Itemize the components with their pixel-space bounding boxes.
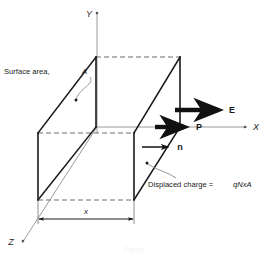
displaced-charge-leader-dot bbox=[146, 162, 149, 165]
normal-label: n bbox=[177, 142, 183, 152]
displaced-charge-text: Displaced charge = bbox=[148, 180, 214, 189]
dimension-x-label: x bbox=[83, 207, 89, 216]
z-axis-tip-dot bbox=[22, 240, 25, 243]
annotation-surface-area: Surface area, A bbox=[4, 67, 91, 102]
annotation-displaced-charge: Displaced charge = qNxA bbox=[146, 162, 252, 190]
edge-right-top-diagonal bbox=[134, 57, 180, 133]
vector-electric-field: E bbox=[175, 105, 235, 115]
polarization-label: P bbox=[196, 122, 202, 132]
edge-right-bottom-diagonal bbox=[134, 127, 180, 200]
figure-caption: Figure bbox=[124, 246, 144, 254]
surface-area-symbol: A bbox=[81, 67, 87, 76]
vector-normal: n bbox=[142, 142, 183, 152]
surface-area-leader-dot bbox=[75, 99, 78, 102]
dimension-x: x bbox=[38, 200, 134, 224]
y-axis-tip-dot bbox=[96, 12, 99, 15]
y-axis-label: Y bbox=[86, 9, 93, 19]
z-axis-line bbox=[22, 127, 97, 243]
displaced-charge-formula: qNxA bbox=[233, 180, 252, 189]
electric-field-label: E bbox=[229, 105, 235, 115]
z-axis-label: Z bbox=[7, 237, 14, 247]
edge-left-bottom-diagonal bbox=[38, 127, 96, 200]
x-axis-label: X bbox=[252, 122, 260, 132]
surface-area-text: Surface area, bbox=[4, 67, 50, 76]
physics-diagram-svg: E P n Y X Z Surface area, A Dis bbox=[0, 0, 268, 256]
figure-container: E P n Y X Z Surface area, A Dis bbox=[0, 0, 268, 256]
x-axis-tip-dot bbox=[244, 126, 247, 129]
